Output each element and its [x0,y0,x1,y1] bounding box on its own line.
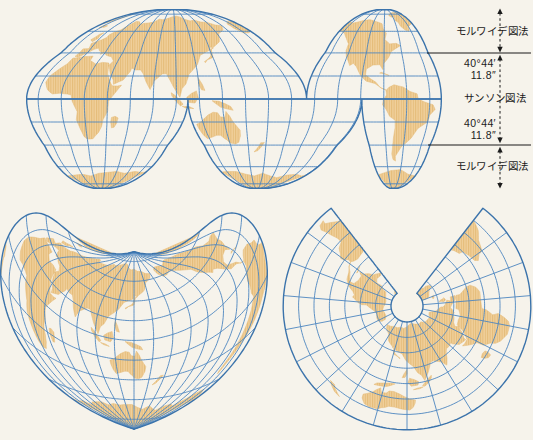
upper-latitude-seconds: 11.8″ [440,69,496,81]
upper-latitude-degrees: 40°44′ [440,57,496,69]
mollweide-label-top: モルワイデ図法 [452,25,532,37]
arrow-down-icon [497,138,502,144]
polar-conic-fan-map [283,208,531,430]
arrow-down-icon [497,183,502,189]
mollweide-label-bottom: モルワイデ図法 [452,160,532,172]
projection-figure: モルワイデ図法 40°44′ 11.8″ サンソン図法 40°44′ 11.8″… [0,0,533,440]
land-regions [320,221,510,411]
arrow-up-icon [497,147,502,153]
lower-latitude-seconds: 11.8″ [440,129,496,141]
land-regions [46,12,435,188]
sanson-label: サンソン図法 [456,92,533,104]
interrupted-homolosine-map [27,10,442,189]
bonne-heart-map [1,213,268,429]
arrow-down-icon [497,47,502,53]
lower-latitude-degrees: 40°44′ [440,117,496,129]
arrow-up-icon [497,9,502,15]
arrow-up-icon [497,55,502,61]
